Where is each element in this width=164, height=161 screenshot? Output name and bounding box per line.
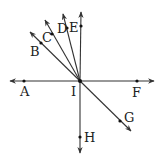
label-e: E (69, 20, 79, 35)
label-d: D (57, 21, 67, 36)
label-c: C (42, 30, 52, 45)
label-h: H (84, 130, 95, 145)
label-g: G (124, 110, 134, 125)
label-i: I (71, 84, 76, 99)
ray-diagram: A B C D E F G H I (0, 0, 164, 161)
label-a: A (19, 84, 30, 99)
label-f: F (132, 85, 141, 100)
labels-layer: A B C D E F G H I (0, 0, 164, 161)
label-b: B (30, 44, 40, 59)
